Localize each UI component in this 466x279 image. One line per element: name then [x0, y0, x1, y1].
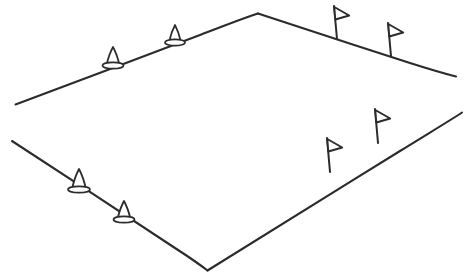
field-diagram — [0, 0, 466, 279]
flag-4-pennant — [375, 110, 390, 123]
field-svg — [0, 0, 466, 279]
flag-1-pennant — [334, 7, 349, 20]
flag-4 — [375, 109, 390, 143]
cone-4-base — [114, 216, 135, 222]
flag-2 — [388, 23, 403, 56]
cone-3-base — [68, 186, 90, 192]
far-left-edge — [16, 14, 259, 105]
far-right-edge — [258, 14, 456, 77]
cone-group-near-left — [68, 169, 135, 223]
cone-1 — [103, 47, 124, 69]
near-left-edge — [12, 141, 208, 271]
flag-3-pennant — [327, 139, 342, 152]
near-right-edge — [208, 113, 463, 271]
flag-2-pennant — [388, 24, 403, 37]
flag-1 — [334, 6, 349, 39]
cone-2-base — [165, 39, 185, 45]
cone-2 — [165, 25, 185, 46]
cone-1-base — [103, 62, 124, 68]
field-edges — [12, 14, 462, 271]
cone-group-far-left — [103, 25, 186, 69]
flag-3 — [327, 138, 342, 172]
cone-4 — [114, 201, 135, 223]
